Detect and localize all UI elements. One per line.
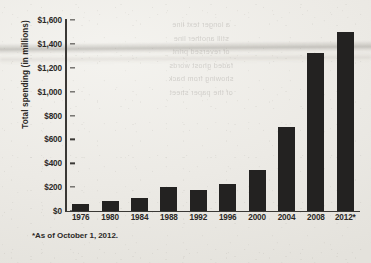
y-axis-tick-mark xyxy=(70,67,75,68)
y-axis-tick-mark xyxy=(70,163,75,164)
y-axis-tick-label: $200 xyxy=(18,183,62,192)
y-axis-tick-label: $1,200 xyxy=(18,63,62,72)
bar xyxy=(307,53,324,211)
y-axis-tick-label: $600 xyxy=(18,135,62,144)
y-axis-tick-mark xyxy=(70,19,75,20)
bar xyxy=(72,204,89,211)
y-axis-line xyxy=(65,19,67,212)
bar xyxy=(249,170,266,211)
bar xyxy=(190,190,207,211)
bar xyxy=(102,201,119,211)
bar xyxy=(337,32,354,211)
bar xyxy=(131,198,148,211)
y-axis-tick-mark xyxy=(70,139,75,140)
y-axis-tick-label: $400 xyxy=(18,159,62,168)
y-axis-tick-group: $0$200$400$600$800$1,000$1,200$1,400$1,6… xyxy=(10,0,62,263)
y-axis-tick-mark xyxy=(70,91,75,92)
x-axis-tick-label: 2012* xyxy=(327,213,363,222)
y-axis-tick-label: $1,000 xyxy=(18,87,62,96)
bar xyxy=(160,187,177,211)
y-axis-tick-label: $0 xyxy=(18,207,62,216)
y-axis-tick-label: $1,600 xyxy=(18,16,62,25)
bar xyxy=(278,127,295,211)
y-axis-tick-mark xyxy=(70,43,75,44)
bar xyxy=(219,184,236,211)
scanned-chart-page: a longer text line still another line of… xyxy=(0,0,371,263)
bar-chart: Total spending (in millions) $0$200$400$… xyxy=(0,0,371,263)
y-axis-tick-mark xyxy=(70,115,75,116)
y-axis-tick-label: $1,400 xyxy=(18,39,62,48)
y-axis-tick-label: $800 xyxy=(18,111,62,120)
chart-footnote: *As of October 1, 2012. xyxy=(32,231,118,240)
y-axis-tick-mark xyxy=(70,186,75,187)
